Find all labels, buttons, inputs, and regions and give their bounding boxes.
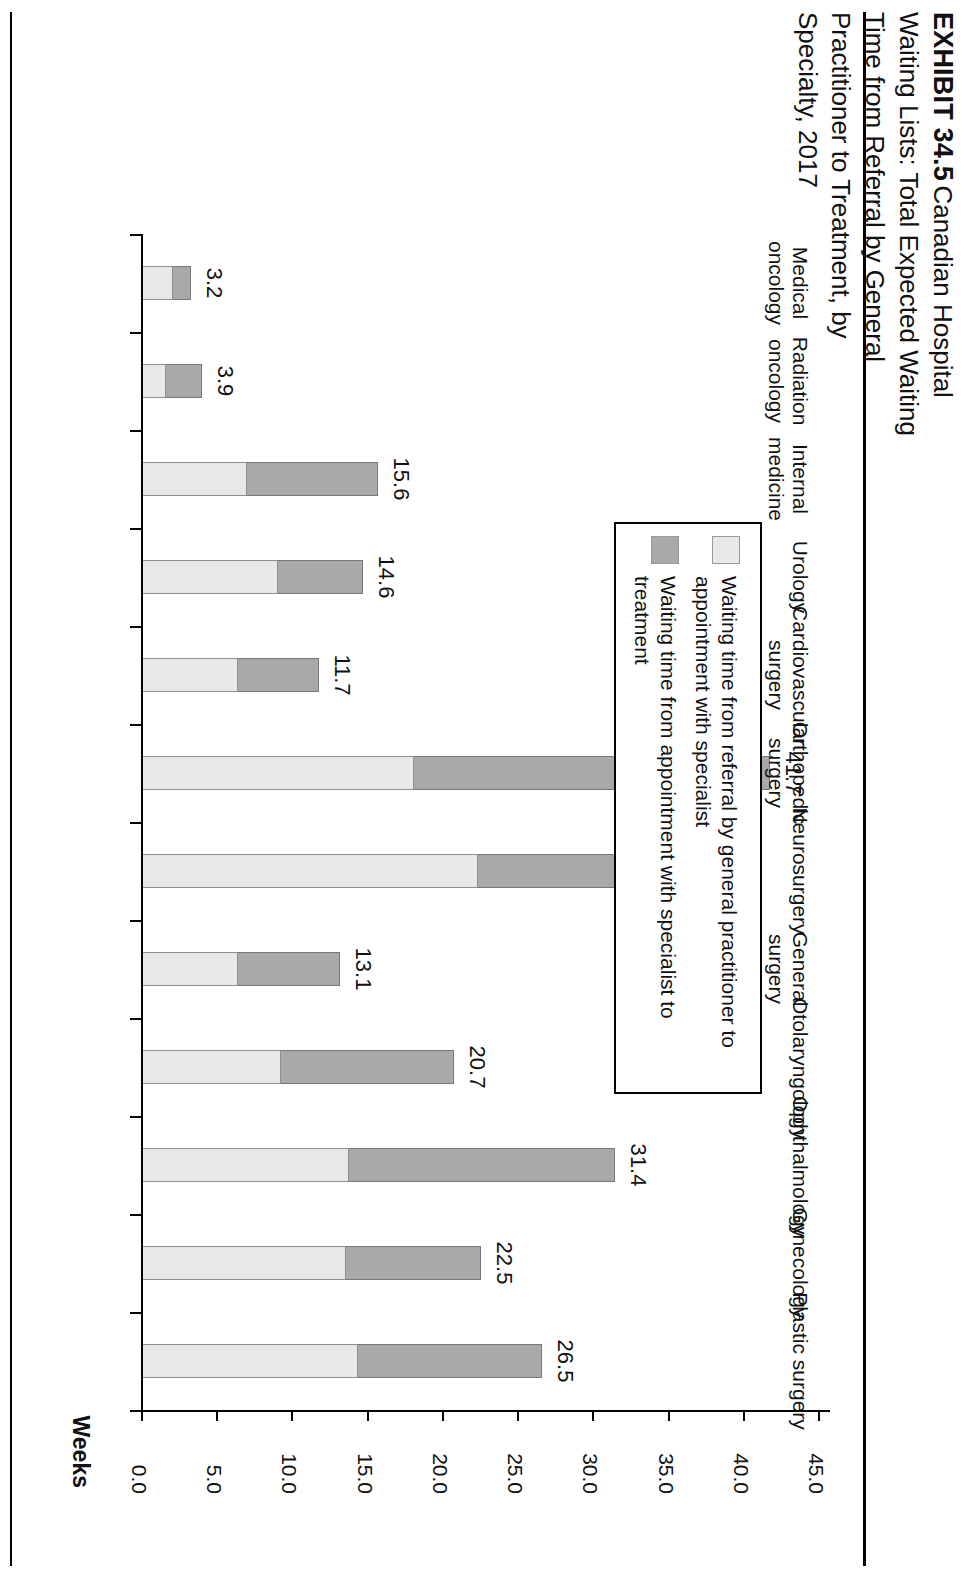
bar-value-label: 20.7 — [464, 1046, 490, 1089]
bar-segment-specialist-to-treatment[interactable] — [278, 560, 362, 594]
value-axis-tick-label: 40.0 — [729, 1453, 753, 1494]
legend-swatch-gp-to-specialist — [712, 536, 740, 564]
bar-otolaryngology[interactable]: 20.7 — [143, 1050, 454, 1084]
chart-container: 3.23.915.614.611.741.732.913.120.731.422… — [31, 178, 826, 1506]
bar-ophthalmology[interactable]: 31.4 — [143, 1148, 615, 1182]
bar-segment-specialist-to-treatment[interactable] — [166, 364, 202, 398]
value-axis-tick-label: 35.0 — [654, 1453, 678, 1494]
bar-value-label: 31.4 — [625, 1144, 651, 1187]
bar-radiation-oncology[interactable]: 3.9 — [143, 364, 202, 398]
bar-segment-gp-to-specialist[interactable] — [143, 1148, 349, 1182]
bar-segment-gp-to-specialist[interactable] — [143, 1344, 358, 1378]
rotated-page-stage: EXHIBIT 34.5 Canadian Hospital Waiting L… — [0, 0, 978, 1579]
bar-urology[interactable]: 14.6 — [143, 560, 363, 594]
value-axis-tick-label: 45.0 — [804, 1453, 828, 1494]
category-axis-tick — [130, 234, 141, 236]
bar-plastic-surgery[interactable]: 26.5 — [143, 1344, 542, 1378]
legend-item: Waiting time from appointment with speci… — [630, 536, 681, 1076]
bar-general-surgery[interactable]: 13.1 — [143, 952, 340, 986]
bar-segment-gp-to-specialist[interactable] — [143, 658, 238, 692]
value-axis-line — [141, 234, 143, 1410]
bar-segment-gp-to-specialist[interactable] — [143, 364, 166, 398]
value-axis-tick-label: 15.0 — [353, 1453, 377, 1494]
value-axis-spine — [141, 1410, 830, 1412]
bar-value-label: 14.6 — [373, 556, 399, 599]
bar-segment-gp-to-specialist[interactable] — [143, 1050, 281, 1084]
bar-value-label: 26.5 — [552, 1340, 578, 1383]
category-axis-tick — [130, 626, 141, 628]
category-axis-tick — [130, 528, 141, 530]
bar-medical-oncology[interactable]: 3.2 — [143, 266, 191, 300]
value-axis-tick-label: 5.0 — [202, 1465, 226, 1494]
legend-swatch-specialist-to-treatment — [651, 536, 679, 564]
value-axis-title: Weeks — [67, 1416, 94, 1488]
bar-segment-gp-to-specialist[interactable] — [143, 952, 238, 986]
value-axis-tick-label: 20.0 — [428, 1453, 452, 1494]
exhibit-number: EXHIBIT 34.5 — [928, 12, 958, 181]
bar-segment-gp-to-specialist[interactable] — [143, 854, 478, 888]
category-axis-tick — [130, 1116, 141, 1118]
category-axis-tick — [130, 1410, 141, 1412]
legend-item-label: Waiting time from appointment with speci… — [630, 576, 681, 1076]
bar-cardiovascular-surgery-elective[interactable]: 11.7 — [143, 658, 319, 692]
category-axis-tick — [130, 724, 141, 726]
bar-segment-specialist-to-treatment[interactable] — [247, 462, 378, 496]
bar-value-label: 3.2 — [201, 268, 227, 299]
value-axis-tick-label: 30.0 — [578, 1453, 602, 1494]
bar-value-label: 3.9 — [212, 366, 238, 397]
bar-segment-gp-to-specialist[interactable] — [143, 266, 173, 300]
bar-segment-specialist-to-treatment[interactable] — [238, 658, 319, 692]
bar-segment-gp-to-specialist[interactable] — [143, 560, 278, 594]
chart-legend: Waiting time from referral by general pr… — [614, 522, 762, 1094]
bar-segment-specialist-to-treatment[interactable] — [281, 1050, 454, 1084]
category-axis-tick — [130, 1018, 141, 1020]
category-axis-tick — [130, 430, 141, 432]
bar-segment-specialist-to-treatment[interactable] — [238, 952, 340, 986]
value-axis-tick-label: 0.0 — [127, 1465, 151, 1494]
value-axis-tick-label: 10.0 — [277, 1453, 301, 1494]
bar-value-label: 22.5 — [492, 1242, 518, 1285]
bar-segment-gp-to-specialist[interactable] — [143, 462, 247, 496]
bar-segment-gp-to-specialist[interactable] — [143, 756, 414, 790]
bar-segment-gp-to-specialist[interactable] — [143, 1246, 346, 1280]
bar-neurosurgery[interactable]: 32.9 — [143, 854, 638, 888]
bar-segment-specialist-to-treatment[interactable] — [349, 1148, 615, 1182]
legend-item: Waiting time from referral by general pr… — [691, 536, 742, 1076]
category-axis-tick — [130, 332, 141, 334]
bar-value-label: 11.7 — [329, 654, 355, 695]
value-axis-tick-label: 25.0 — [503, 1453, 527, 1494]
category-label-plastic-surgery: Plastic surgery — [788, 1292, 812, 1430]
bar-segment-specialist-to-treatment[interactable] — [173, 266, 191, 300]
category-axis-tick — [130, 920, 141, 922]
bar-internal-medicine[interactable]: 15.6 — [143, 462, 378, 496]
page-bottom-rule — [10, 12, 12, 1566]
title-divider-rule — [863, 12, 866, 1566]
bar-gynecology[interactable]: 22.5 — [143, 1246, 481, 1280]
bar-value-label: 13.1 — [350, 948, 376, 991]
category-axis-tick — [130, 1214, 141, 1216]
category-axis-tick — [130, 1312, 141, 1314]
bar-segment-specialist-to-treatment[interactable] — [346, 1246, 481, 1280]
legend-item-label: Waiting time from referral by general pr… — [691, 576, 742, 1076]
bar-segment-specialist-to-treatment[interactable] — [358, 1344, 542, 1378]
bar-value-label: 15.6 — [388, 458, 414, 501]
category-axis-tick — [130, 822, 141, 824]
